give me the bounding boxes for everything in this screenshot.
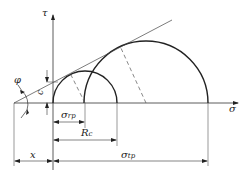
rc-label: Rc [81, 128, 92, 138]
phi-label: φ [14, 75, 21, 85]
x-label: x [30, 150, 36, 160]
phi-arc [22, 91, 28, 110]
tau-label: τ [42, 8, 48, 18]
large-radius-dashed [120, 46, 146, 103]
mohr-diagram: τ σ φ c σrp Rc σtp x [0, 0, 246, 177]
small-mohr-circle [53, 71, 117, 103]
sigma-tp-label: σtp [121, 150, 135, 160]
sigma-rp-label: σrp [61, 110, 76, 120]
large-mohr-circle [84, 41, 208, 103]
small-radius-dashed [70, 73, 85, 103]
c-label: c [36, 90, 45, 95]
sigma-label: σ [229, 104, 236, 114]
